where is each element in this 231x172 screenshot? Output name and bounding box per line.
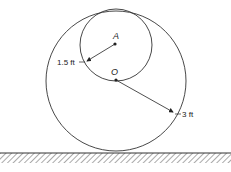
small-radius-arrow [87, 44, 115, 61]
point-o-label: O [111, 67, 118, 77]
ground [0, 153, 231, 163]
point-a-label: A [112, 31, 119, 41]
small-radius-label: 1.5 ft [57, 58, 76, 67]
large-radius-label: 3 ft [182, 110, 194, 119]
diagram-canvas: A O 1.5 ft 3 ft [0, 0, 231, 172]
large-radius-arrow [116, 80, 173, 112]
